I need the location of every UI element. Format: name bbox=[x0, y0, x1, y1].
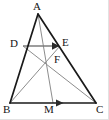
vertex-label-c: C bbox=[96, 104, 103, 115]
cevian-line-AM bbox=[38, 14, 53, 103]
vertex-label-d: D bbox=[10, 38, 18, 49]
triangle-side-AB bbox=[10, 14, 38, 103]
vector-BC-arrowhead-icon bbox=[56, 99, 64, 106]
vertex-label-f: F bbox=[54, 54, 60, 65]
vertex-label-m: M bbox=[44, 104, 54, 115]
figure-border-right bbox=[108, 0, 109, 120]
figure-border-bottom bbox=[0, 119, 109, 120]
cevian-line-BE bbox=[10, 46, 60, 103]
geometry-figure: A B C D E F M bbox=[0, 0, 109, 120]
vertex-label-a: A bbox=[33, 1, 41, 12]
triangle-side-AC bbox=[38, 14, 96, 103]
vertex-label-b: B bbox=[3, 104, 10, 115]
vertex-label-e: E bbox=[62, 37, 69, 48]
